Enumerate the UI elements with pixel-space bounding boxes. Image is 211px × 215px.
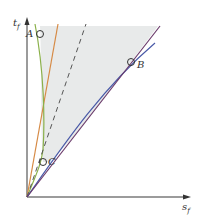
diagram-canvas: A B C tf sf <box>0 0 211 215</box>
x-axis-label: sf <box>182 201 191 215</box>
y-axis-label: tf <box>13 17 21 31</box>
x-axis-arrow-icon <box>183 195 191 200</box>
point-c-label: C <box>48 156 56 167</box>
y-axis-arrow-icon <box>25 17 30 25</box>
point-a-label: A <box>25 28 33 39</box>
shaded-region <box>40 26 158 162</box>
point-b-label: B <box>136 59 144 70</box>
